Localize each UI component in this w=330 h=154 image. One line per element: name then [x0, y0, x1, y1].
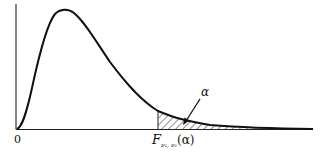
- alpha-arrow: [186, 99, 200, 121]
- alpha-label: α: [201, 86, 209, 98]
- density-curve: [17, 10, 313, 129]
- f-symbol: F: [152, 132, 161, 147]
- f-distribution-chart: [0, 0, 330, 154]
- degrees-of-freedom-subscript: ν₁, ν₂: [161, 141, 177, 148]
- origin-label: 0: [14, 134, 21, 145]
- alpha-argument: (α): [177, 133, 194, 147]
- critical-value-label: Fν₁, ν₂(α): [152, 133, 194, 148]
